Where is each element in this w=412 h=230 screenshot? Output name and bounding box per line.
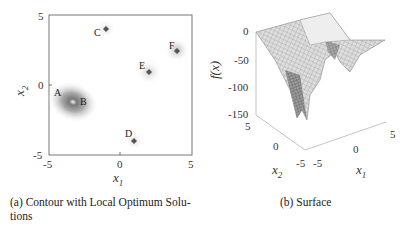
x-tick-0: 0 <box>353 143 359 155</box>
y-tick-neg5: -5 <box>296 157 305 169</box>
x-axis-label: x1 <box>356 162 366 180</box>
x-tick-5: 5 <box>390 128 396 140</box>
contour-plot: A B C D E F 5 0 -5 -5 0 5 x2 x1 <box>0 0 210 180</box>
x-tick-0: 0 <box>117 158 123 170</box>
y-tick-0: 0 <box>38 79 44 91</box>
x-tick-neg5: -5 <box>313 157 322 169</box>
point-label-d: D <box>125 128 132 139</box>
y-tick-neg5: -5 <box>33 149 42 161</box>
y-axis-label: x2 <box>12 86 30 96</box>
y-tick-0: 0 <box>273 140 279 152</box>
caption-a: (a) Contour with Local Optimum Solu- tio… <box>10 195 230 223</box>
y-tick-5: 5 <box>245 120 251 132</box>
x-tick-5: 5 <box>188 158 194 170</box>
y-tick-5: 5 <box>38 10 44 22</box>
z-tick-neg150: -150 <box>228 108 248 120</box>
x-tick-neg5: -5 <box>43 158 52 170</box>
z-tick-0: 0 <box>243 25 249 37</box>
point-label-c: C <box>94 27 101 38</box>
point-label-b: B <box>80 96 87 107</box>
point-label-a: A <box>54 87 61 98</box>
surface-plot: 0 -50 -100 -150 5 0 -5 -5 0 5 f(x) x2 x1 <box>200 0 412 180</box>
point-label-e: E <box>139 60 145 71</box>
y-axis-label: x2 <box>272 162 282 180</box>
contour-axes <box>0 0 210 180</box>
point-label-f: F <box>169 40 175 51</box>
caption-b: (b) Surface <box>280 195 331 209</box>
x-axis-label: x1 <box>113 170 123 188</box>
z-axis-label: f(x) <box>207 61 223 79</box>
z-tick-neg100: -100 <box>228 81 248 93</box>
z-tick-neg50: -50 <box>234 54 249 66</box>
